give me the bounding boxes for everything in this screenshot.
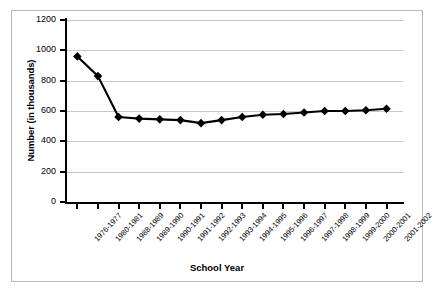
x-axis-title: School Year xyxy=(0,262,434,273)
data-point-marker xyxy=(238,113,247,122)
data-point-marker xyxy=(279,110,288,119)
series-line xyxy=(77,56,386,123)
data-point-marker xyxy=(114,113,123,122)
data-point-marker xyxy=(217,116,226,125)
data-point-marker xyxy=(259,110,268,119)
chart-figure: Number (in thousands) 020040060080010001… xyxy=(0,0,434,292)
data-point-marker xyxy=(197,119,206,128)
data-point-marker xyxy=(135,114,144,123)
data-point-marker xyxy=(176,116,185,125)
data-point-marker xyxy=(320,107,329,116)
data-series xyxy=(0,0,434,292)
data-point-marker xyxy=(155,115,164,124)
data-point-marker xyxy=(300,108,309,117)
data-point-marker xyxy=(382,104,391,113)
data-point-marker xyxy=(341,107,350,116)
series-markers xyxy=(73,52,391,127)
data-point-marker xyxy=(362,106,371,115)
